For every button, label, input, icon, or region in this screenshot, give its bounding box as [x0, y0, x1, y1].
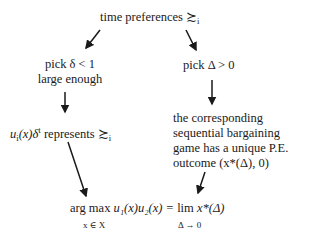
- node-pick-Delta: pick Δ > 0: [183, 58, 235, 73]
- arrow-top-right: [186, 30, 196, 50]
- node-bargaining-game: the corresponding sequential bargaining …: [173, 111, 288, 171]
- lim-subscript: Δ → 0: [178, 218, 201, 233]
- succeq-symbol: ≿: [186, 10, 197, 24]
- node-time-preferences: time preferences ≿i: [100, 10, 199, 26]
- arrow-left-bottom: [68, 142, 86, 196]
- arrow-right-bottom: [198, 172, 205, 193]
- node-nash-solution: arg max u₁(x)u₂(x) = lim x*(Δ): [70, 201, 224, 216]
- node-pick-delta: pick δ < 1 large enough: [24, 57, 116, 87]
- argmax-subscript: x ∈ X: [83, 218, 105, 233]
- node-utility-represents: ui(x)δt represents ≿i: [10, 123, 111, 143]
- arrow-top-left: [86, 30, 100, 48]
